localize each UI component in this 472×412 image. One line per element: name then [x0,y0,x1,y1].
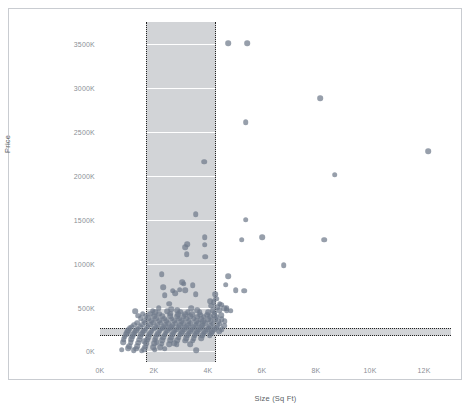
x-tick-label: 0K [80,367,120,374]
scatter-plot-area[interactable] [100,22,451,362]
x-tick-label: 4K [188,367,228,374]
y-axis-title: Price [3,33,12,153]
data-point[interactable] [228,308,234,314]
data-point[interactable] [233,288,239,294]
data-point[interactable] [242,288,248,294]
x-tick-label: 8K [296,367,336,374]
data-point[interactable] [244,40,250,46]
data-point[interactable] [223,282,229,288]
x-axis-tick-labels: 0K2K4K6K8K10K12K [100,367,451,381]
data-point[interactable] [152,347,158,353]
gridline-over-band [147,176,215,177]
gridline-over-band [147,44,215,45]
data-point[interactable] [207,332,213,338]
y-tick-label: 3000K [55,84,95,91]
data-point[interactable] [317,96,323,102]
x-tick-label: 2K [134,367,174,374]
data-point[interactable] [332,172,338,178]
gridline-over-band [147,88,215,89]
data-point[interactable] [120,339,126,345]
data-point[interactable] [225,274,231,280]
y-tick-label: 500K [55,304,95,311]
data-point[interactable] [119,347,125,353]
y-tick-label: 1500K [55,216,95,223]
data-point[interactable] [321,237,327,243]
data-point[interactable] [243,217,249,223]
x-tick-label: 10K [350,367,390,374]
data-point[interactable] [193,292,199,298]
y-tick-label: 0K [55,348,95,355]
data-point[interactable] [198,335,204,341]
chart-frame: 0K500K1000K1500K2000K2500K3000K3500K 0K2… [8,8,462,380]
data-point[interactable] [202,159,208,165]
data-point[interactable] [202,242,208,248]
data-point[interactable] [239,237,245,243]
data-point[interactable] [194,348,200,354]
y-axis-tick-labels: 0K500K1000K1500K2000K2500K3000K3500K [49,22,95,362]
data-point[interactable] [131,347,137,353]
data-point[interactable] [243,119,249,125]
data-point[interactable] [183,244,189,250]
y-tick-label: 3500K [55,40,95,47]
data-point[interactable] [141,338,147,344]
data-point[interactable] [225,40,231,46]
data-point[interactable] [183,287,189,293]
data-point[interactable] [425,148,431,154]
data-point[interactable] [159,271,165,277]
data-point[interactable] [184,251,190,257]
data-point[interactable] [171,340,177,346]
y-tick-label: 1000K [55,260,95,267]
x-axis-title: Size (Sq Ft) [100,394,451,403]
y-tick-label: 2000K [55,172,95,179]
data-point[interactable] [281,262,287,268]
data-point[interactable] [139,348,145,354]
x-tick-label: 6K [242,367,282,374]
data-point[interactable] [172,290,178,296]
data-point[interactable] [193,212,199,218]
data-point[interactable] [162,292,168,298]
gridline-over-band [147,220,215,221]
data-point[interactable] [202,254,208,260]
data-point[interactable] [202,234,208,240]
data-point[interactable] [181,281,187,287]
gridline-over-band [147,132,215,133]
data-point[interactable] [259,234,265,240]
data-point[interactable] [190,282,196,288]
data-point[interactable] [160,285,166,291]
x-tick-label: 12K [404,367,444,374]
data-point[interactable] [217,329,223,335]
data-point[interactable] [188,341,194,347]
y-tick-label: 2500K [55,128,95,135]
gridline-over-band [147,264,215,265]
data-point[interactable] [162,346,168,352]
data-point[interactable] [154,339,160,345]
